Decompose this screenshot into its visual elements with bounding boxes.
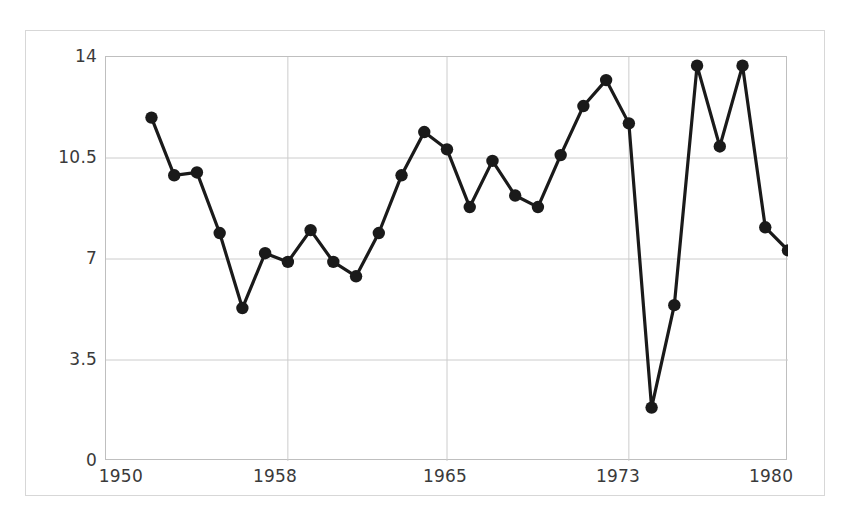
data-point <box>236 302 248 314</box>
data-point <box>373 227 385 239</box>
data-point <box>554 149 566 161</box>
data-point <box>486 155 498 167</box>
data-line <box>151 66 788 408</box>
data-point <box>532 201 544 213</box>
data-point <box>600 74 612 86</box>
y-tick-label: 14 <box>75 46 97 66</box>
x-tick-label: 1973 <box>596 466 640 486</box>
data-point <box>691 59 703 71</box>
data-point <box>759 221 771 233</box>
y-axis-tick-labels: 14 10.5 7 3.5 0 <box>40 56 97 460</box>
data-point <box>259 247 271 259</box>
data-point <box>282 256 294 268</box>
x-tick-label: 1958 <box>253 466 297 486</box>
data-point <box>395 169 407 181</box>
chart-figure: 14 10.5 7 3.5 0 1950 1958 1965 1973 1980 <box>0 0 852 527</box>
x-tick-label: 1965 <box>423 466 467 486</box>
data-point <box>441 143 453 155</box>
data-point <box>714 140 726 152</box>
data-point <box>145 111 157 123</box>
data-point <box>577 100 589 112</box>
data-point <box>304 224 316 236</box>
y-tick-label: 7 <box>86 248 97 268</box>
y-tick-label: 10.5 <box>58 147 97 167</box>
data-point <box>418 126 430 138</box>
y-tick-label: 3.5 <box>69 349 97 369</box>
data-point <box>168 169 180 181</box>
data-point <box>645 401 657 413</box>
data-point <box>213 227 225 239</box>
data-point <box>668 299 680 311</box>
data-point <box>191 166 203 178</box>
x-axis-tick-labels: 1950 1958 1965 1973 1980 <box>105 466 787 492</box>
x-tick-label: 1950 <box>99 466 143 486</box>
data-point <box>350 270 362 282</box>
y-tick-label: 0 <box>86 450 97 470</box>
data-point <box>509 189 521 201</box>
gridlines <box>106 57 788 461</box>
x-tick-label: 1980 <box>749 466 793 486</box>
plot-area <box>105 56 787 460</box>
data-point <box>327 256 339 268</box>
data-point <box>736 59 748 71</box>
data-point <box>623 117 635 129</box>
data-point <box>464 201 476 213</box>
line-chart-svg <box>106 57 788 461</box>
